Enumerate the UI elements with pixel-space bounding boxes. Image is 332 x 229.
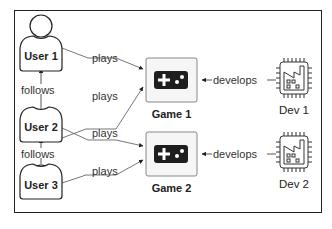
dev-1-label: Dev 1: [274, 104, 314, 116]
factory-chip-icon: [276, 58, 312, 98]
game-node-1: [146, 58, 197, 102]
user-node-1: [20, 15, 62, 71]
game-2-label: Game 2: [146, 182, 197, 194]
user-1-label: User 1: [20, 50, 62, 62]
develops-label-1: develops: [212, 74, 258, 86]
factory-chip-icon: [276, 132, 312, 172]
dev-node-1: [276, 58, 312, 98]
plays-label-1: plays: [92, 52, 118, 64]
user-3-label: User 3: [20, 179, 62, 191]
dev-2-label: Dev 2: [274, 178, 314, 190]
follows-label-1: follows: [21, 84, 55, 96]
game-node-2: [146, 132, 197, 176]
plays-label-2: plays: [92, 90, 118, 102]
person-icon: [30, 15, 52, 37]
game-1-label: Game 1: [146, 108, 197, 120]
plays-label-4: plays: [92, 165, 118, 177]
dev-node-2: [276, 132, 312, 172]
gamepad-icon: [154, 145, 188, 163]
develops-label-2: develops: [212, 148, 258, 160]
gamepad-icon: [154, 71, 188, 89]
follows-label-2: follows: [21, 148, 55, 160]
user-2-label: User 2: [20, 121, 62, 133]
plays-label-3: plays: [92, 127, 118, 139]
